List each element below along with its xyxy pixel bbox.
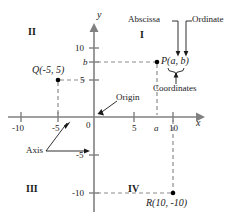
coordinates-label: Coordinates: [153, 84, 197, 93]
coordinates-arrowhead: [174, 72, 179, 78]
x-axis-group: [8, 113, 205, 122]
x-tick-label-5: 5: [132, 124, 137, 133]
origin-callout-leader: [98, 101, 118, 116]
abscissa-leader-path: [172, 21, 178, 51]
quadrant-label-III: III: [26, 184, 38, 194]
abscissa-label: Abscissa: [128, 15, 160, 24]
point-marker-R: [171, 191, 176, 196]
quadrant-label-I: I: [140, 30, 144, 40]
ordinate-callout-leader: [184, 21, 192, 57]
x-tick-label-neg5: -5: [52, 124, 60, 133]
y-tick-label-b: b: [83, 58, 88, 67]
x-axis-label: x: [196, 118, 200, 128]
p-guide-lines: [97, 62, 157, 115]
origin-tick-label: 0: [86, 121, 91, 130]
quadrant-label-II: II: [28, 27, 36, 37]
x-tick-label-neg10: -10: [12, 124, 24, 133]
q-guide-lines: [58, 80, 86, 115]
point-label-Q: Q(-5, 5): [32, 65, 64, 75]
y-tick-label-5: 5: [80, 76, 85, 85]
y-tick-label-neg5: -5: [76, 151, 84, 160]
axis-arrowhead-y: [84, 149, 90, 154]
origin-arrowhead: [98, 109, 105, 116]
y-axis-label: y: [97, 10, 101, 20]
point-marker-Q: [56, 78, 61, 83]
point-marker-P: [155, 60, 160, 65]
abscissa-callout-leader: [172, 21, 180, 57]
coordinate-plane-figure: x y -10 -5 5 10 0 10 5 -5 -10 a b I II I…: [0, 0, 237, 224]
axis-arrowhead-x: [64, 122, 71, 130]
axis-label: Axis: [26, 146, 43, 155]
point-label-R: R(10, -10): [146, 198, 187, 208]
x-tick-label-a: a: [154, 124, 159, 133]
ordinate-label: Ordinate: [192, 15, 224, 24]
y-tick-label-neg10: -10: [72, 189, 84, 198]
origin-label: Origin: [116, 93, 140, 102]
ordinate-leader-path: [186, 21, 192, 51]
point-label-P: P(a, b): [161, 56, 189, 66]
y-axis-arrowhead: [90, 23, 99, 32]
y-tick-label-10: 10: [75, 44, 84, 53]
x-tick-label-10: 10: [169, 124, 178, 133]
quadrant-label-IV: IV: [128, 184, 139, 194]
